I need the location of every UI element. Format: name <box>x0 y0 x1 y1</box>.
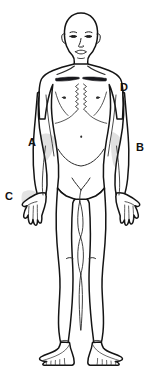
navel <box>80 135 82 137</box>
right-nipple <box>96 97 100 99</box>
region-label-b: B <box>136 141 144 153</box>
right-eye <box>85 36 92 38</box>
body-diagram-canvas: A B C D <box>0 0 162 366</box>
region-label-c: C <box>5 190 13 202</box>
left-eye <box>70 36 77 38</box>
region-label-a: A <box>28 136 36 148</box>
human-body-figure: A B C D <box>0 0 162 366</box>
region-label-d: D <box>120 81 128 93</box>
left-nipple <box>63 97 67 99</box>
